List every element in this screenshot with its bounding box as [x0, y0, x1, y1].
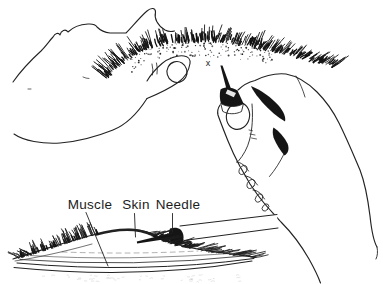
muscle-label: Muscle — [68, 197, 113, 212]
injection-site-x-marker: x — [206, 58, 211, 68]
skin-leader-line — [135, 214, 136, 238]
stretching-hand — [13, 8, 190, 143]
barrel-fill — [180, 215, 278, 242]
tissue-cross-section — [8, 215, 278, 283]
medical-illustration-figure: x — [0, 0, 383, 284]
faint-sketch-marks — [28, 77, 89, 89]
hairy-skin-band — [92, 25, 349, 78]
needle-shaft — [220, 65, 230, 89]
muscle-fiber-line-3 — [30, 253, 244, 258]
thumbnail — [165, 59, 190, 84]
injection-technique-illustration: x — [0, 0, 383, 284]
needle-label: Needle — [156, 197, 201, 212]
skin-label: Skin — [122, 197, 149, 212]
bottom-smudge — [42, 275, 241, 282]
muscle-fiber-line-4 — [62, 251, 198, 253]
stretching-hand-bottom-contour — [14, 99, 147, 144]
